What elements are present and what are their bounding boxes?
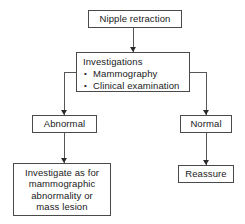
node-abnormal: Abnormal bbox=[32, 115, 97, 133]
node-reassure: Reassure bbox=[178, 165, 234, 183]
node-investigations-heading: Investigations bbox=[83, 56, 189, 67]
connector-investigations-right-branch-horizontal bbox=[190, 72, 207, 73]
node-normal: Normal bbox=[180, 115, 232, 133]
node-nipple-retraction: Nipple retraction bbox=[88, 10, 182, 28]
node-abnormal-label: Abnormal bbox=[44, 118, 85, 129]
node-reassure-label: Reassure bbox=[185, 168, 226, 179]
list-item: • Mammography bbox=[83, 68, 189, 80]
node-investigations-item-label: Clinical examination bbox=[93, 80, 179, 91]
node-investigate-as-for-mammographic-abnormality-label: Investigate as for mammographic abnormal… bbox=[25, 167, 99, 212]
connector-investigations-left-branch-vertical bbox=[64, 72, 65, 115]
flowchart-canvas: Nipple retraction Investigations • Mammo… bbox=[0, 0, 245, 224]
node-investigations: Investigations • Mammography • Clinical … bbox=[76, 52, 190, 92]
connector-investigations-right-branch-vertical bbox=[206, 72, 207, 115]
node-investigate-as-for-mammographic-abnormality: Investigate as for mammographic abnormal… bbox=[13, 163, 111, 216]
node-investigations-item-label: Mammography bbox=[93, 68, 157, 79]
node-nipple-retraction-label: Nipple retraction bbox=[100, 13, 171, 24]
node-investigations-list: • Mammography • Clinical examination bbox=[83, 68, 189, 92]
list-item: • Clinical examination bbox=[83, 80, 189, 92]
bullet-icon: • bbox=[84, 80, 87, 92]
node-normal-label: Normal bbox=[190, 118, 221, 129]
bullet-icon: • bbox=[84, 68, 87, 80]
